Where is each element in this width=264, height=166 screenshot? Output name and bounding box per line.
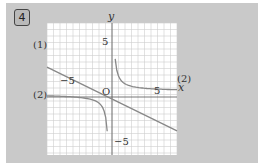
y-tick-neg5: −5	[114, 136, 129, 147]
y-axis-label: y	[107, 10, 115, 23]
x-tick-neg5: −5	[60, 75, 75, 86]
origin-label: O	[102, 86, 110, 97]
graph: y x O 5 −5 −5 5 (1) (2) (2)	[0, 0, 264, 166]
curve-label-1: (1)	[33, 39, 47, 50]
y-tick-5: 5	[102, 36, 108, 47]
curve-label-2-right: (2)	[177, 73, 191, 84]
x-tick-5: 5	[154, 85, 160, 96]
curve-label-2-left: (2)	[33, 89, 47, 100]
